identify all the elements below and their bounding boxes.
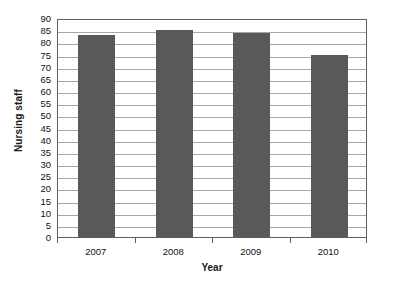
y-axis-tick-label: 10	[24, 209, 51, 219]
y-axis-tick-label: 35	[24, 148, 51, 158]
bar	[156, 30, 193, 237]
bar	[311, 55, 348, 238]
plot-area	[57, 19, 367, 238]
bars-layer	[58, 20, 366, 237]
y-axis-tick-label: 60	[24, 87, 51, 97]
y-axis-tick-label: 70	[24, 63, 51, 73]
y-axis-tick-label: 50	[24, 112, 51, 122]
x-axis-tick-label: 2009	[240, 245, 261, 259]
x-axis-tick-label: 2008	[163, 245, 184, 259]
x-axis-tickmark	[57, 238, 58, 243]
y-axis-tick-label: 5	[24, 221, 51, 231]
y-axis-tick-label: 45	[24, 124, 51, 134]
x-axis-tick-labels: 2007200820092010	[57, 245, 367, 259]
x-axis-title: Year	[57, 262, 367, 273]
x-axis-tickmark	[135, 238, 136, 243]
x-axis-tickmarks	[57, 238, 367, 243]
y-axis-title-label: Nursing staff	[13, 89, 24, 152]
y-axis-tick-label: 30	[24, 160, 51, 170]
x-axis-tickmark	[366, 238, 367, 243]
y-axis-tick-label: 40	[24, 136, 51, 146]
y-axis-tick-label: 90	[24, 14, 51, 24]
x-axis-tick-label: 2010	[318, 245, 339, 259]
y-axis-tick-label: 65	[24, 75, 51, 85]
bar	[78, 35, 115, 237]
x-axis-tickmark	[290, 238, 291, 243]
y-axis-tick-label: 0	[24, 233, 51, 243]
y-axis-tick-label: 75	[24, 51, 51, 61]
y-axis-tick-label: 25	[24, 172, 51, 182]
x-axis-tick-label: 2007	[85, 245, 106, 259]
bar	[233, 33, 270, 237]
x-axis-tickmark	[212, 238, 213, 243]
y-axis-tick-label: 15	[24, 197, 51, 207]
y-axis-tick-label: 20	[24, 185, 51, 195]
y-axis-tick-label: 55	[24, 99, 51, 109]
y-axis-tick-label: 85	[24, 26, 51, 36]
y-axis-tick-label: 80	[24, 39, 51, 49]
bar-chart: Nursing staff 90858075706560555045403530…	[0, 0, 396, 286]
y-axis-tick-labels: 908580757065605550454035302520151050	[24, 19, 51, 238]
